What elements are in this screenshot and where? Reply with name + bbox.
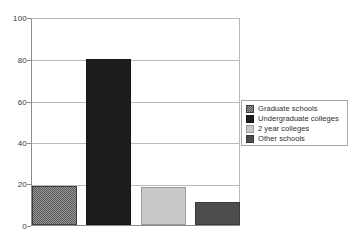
y-tick-mark-0 xyxy=(27,226,31,227)
y-tick-label-0: 0 xyxy=(3,223,27,231)
legend-item-other-schools[interactable]: Other schools xyxy=(246,134,347,144)
legend-item-undergraduate-colleges[interactable]: Undergraduate colleges xyxy=(246,114,347,124)
bar-undergraduate-colleges[interactable] xyxy=(86,59,131,225)
legend-swatch-icon-other-schools xyxy=(246,135,254,143)
y-axis: 100 80 60 40 20 0 xyxy=(0,0,27,243)
legend: Graduate schools Undergraduate colleges … xyxy=(241,100,348,146)
bar-2-year-colleges[interactable] xyxy=(141,187,186,225)
legend-label-2-year-colleges: 2 year colleges xyxy=(258,124,309,133)
legend-item-2-year-colleges[interactable]: 2 year colleges xyxy=(246,124,347,134)
bar-other-schools[interactable] xyxy=(195,202,240,225)
bar-graduate-schools[interactable] xyxy=(32,186,77,225)
y-tick-label-20: 20 xyxy=(3,181,27,189)
legend-item-graduate-schools[interactable]: Graduate schools xyxy=(246,104,347,114)
y-tick-label-80: 80 xyxy=(3,57,27,65)
y-tick-label-60: 60 xyxy=(3,99,27,107)
gridline-80 xyxy=(32,60,239,61)
legend-swatch-icon-2-year-colleges xyxy=(246,125,254,133)
plot-area xyxy=(31,18,240,226)
gridline-60 xyxy=(32,102,239,103)
y-tick-label-40: 40 xyxy=(3,140,27,148)
legend-swatch-icon-graduate-schools xyxy=(246,105,254,113)
bar-chart: 100 80 60 40 20 0 Graduate schools xyxy=(0,0,355,243)
legend-swatch-icon-undergraduate-colleges xyxy=(246,115,254,123)
y-tick-label-100: 100 xyxy=(3,15,27,23)
legend-label-undergraduate-colleges: Undergraduate colleges xyxy=(258,114,339,123)
legend-label-other-schools: Other schools xyxy=(258,134,305,143)
gridline-40 xyxy=(32,143,239,144)
legend-label-graduate-schools: Graduate schools xyxy=(258,104,318,113)
